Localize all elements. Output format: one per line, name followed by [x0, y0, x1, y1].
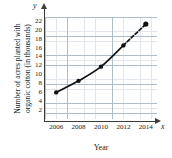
line-chart: y x 2 4 6 8 10 12 14 16 18 20 22 2006 20…	[0, 0, 172, 158]
x-axis-title: Year	[45, 144, 157, 152]
x-tick-label: 2014	[134, 124, 158, 131]
y-axis-title-line2: organic cotton (in thousands)	[23, 0, 33, 139]
x-tick-label: 2006	[44, 124, 68, 131]
y-axis-title-line1: Number of acres planted with	[13, 0, 23, 139]
x-tick-label: 2012	[111, 124, 135, 131]
x-tick-label: 2010	[89, 124, 113, 131]
x-tick-label: 2008	[67, 124, 91, 131]
y-axis-title: Number of acres planted with organic cot…	[13, 0, 32, 139]
